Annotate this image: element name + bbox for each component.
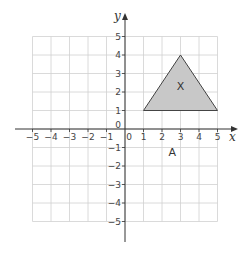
x-tick-label: 4 xyxy=(196,132,202,142)
x-tick-label: 1 xyxy=(141,132,147,142)
triangle-x-label: X xyxy=(177,80,185,93)
axes xyxy=(15,13,238,242)
y-tick-label: 4 xyxy=(115,50,121,60)
origin-label: 0 xyxy=(115,120,121,130)
y-tick-label: −2 xyxy=(108,161,121,171)
x-axis-label: x xyxy=(229,130,236,144)
y-tick-label: −3 xyxy=(108,180,121,190)
y-tick-label: 5 xyxy=(115,32,121,42)
y-tick-label: 2 xyxy=(115,87,121,97)
x-tick-label: −1 xyxy=(100,132,113,142)
x-tick-label: 3 xyxy=(178,132,184,142)
x-tick-label: −3 xyxy=(63,132,76,142)
x-tick-label: 0 xyxy=(126,132,132,142)
y-tick-label: −4 xyxy=(108,198,122,208)
x-tick-label: 2 xyxy=(159,132,165,142)
y-tick-label: −5 xyxy=(108,217,121,227)
x-tick-label: −5 xyxy=(26,132,39,142)
x-tick-label: −2 xyxy=(81,132,94,142)
x-tick-label: −4 xyxy=(44,132,58,142)
y-tick-label: −1 xyxy=(108,143,121,153)
y-axis-arrow-icon xyxy=(122,13,128,20)
coordinate-grid-diagram: −5−4−3−2−101234554321−1−2−3−4−50 x y X A xyxy=(0,0,245,253)
y-axis-label: y xyxy=(113,9,121,23)
point-a-label: A xyxy=(168,146,176,159)
y-tick-label: 3 xyxy=(115,69,121,79)
x-tick-label: 5 xyxy=(215,132,221,142)
y-tick-label: 1 xyxy=(115,106,121,116)
